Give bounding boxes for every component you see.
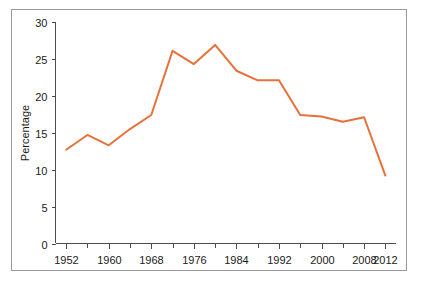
y-axis-tick-labels: 051015202530 <box>35 17 47 251</box>
x-tick-label: 1976 <box>182 254 206 266</box>
y-tick-label: 5 <box>41 202 47 214</box>
figure-container: 051015202530 195219601968197619841992200… <box>0 0 423 282</box>
x-axis-ticks <box>67 244 386 249</box>
x-tick-label: 1968 <box>139 254 163 266</box>
y-tick-label: 15 <box>35 128 47 140</box>
x-tick-label: 1984 <box>224 254 248 266</box>
y-tick-label: 20 <box>35 91 47 103</box>
y-axis-title: Percentage <box>19 105 31 161</box>
data-series-line <box>66 45 385 176</box>
x-axis-tick-labels: 195219601968197619841992200020082012 <box>54 254 397 266</box>
x-tick-label: 2012 <box>373 254 397 266</box>
y-tick-label: 25 <box>35 54 47 66</box>
y-tick-label: 10 <box>35 165 47 177</box>
x-tick-label: 1952 <box>54 254 78 266</box>
x-tick-label: 1992 <box>267 254 291 266</box>
y-tick-label: 30 <box>35 17 47 29</box>
y-axis-ticks <box>52 23 56 245</box>
x-tick-label: 1960 <box>97 254 121 266</box>
y-tick-label: 0 <box>41 239 47 251</box>
line-chart: 051015202530 195219601968197619841992200… <box>0 0 423 282</box>
x-tick-label: 2000 <box>310 254 334 266</box>
